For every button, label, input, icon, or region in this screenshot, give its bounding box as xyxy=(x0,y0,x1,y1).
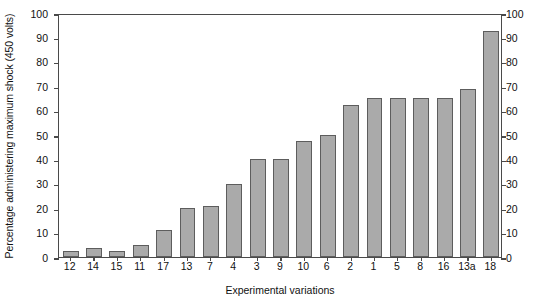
y-tick-label-right: 70 xyxy=(506,82,532,93)
x-tick-label: 16 xyxy=(432,261,455,272)
y-tick-label: 10 xyxy=(22,228,48,239)
y-tick-mark xyxy=(501,136,506,137)
y-tick-mark xyxy=(54,161,59,162)
y-tick-mark xyxy=(54,185,59,186)
y-tick-label: 40 xyxy=(22,155,48,166)
y-axis-title-text: Percentage administering maximum shock (… xyxy=(3,14,15,259)
bar xyxy=(460,89,476,257)
x-axis-title: Experimental variations xyxy=(58,284,502,296)
y-tick-label-right: 80 xyxy=(506,57,532,68)
x-tick-label: 1 xyxy=(362,261,385,272)
y-tick-mark xyxy=(501,63,506,64)
x-tick-label: 12 xyxy=(58,261,81,272)
y-tick-mark xyxy=(54,39,59,40)
y-tick-mark xyxy=(54,210,59,211)
bar xyxy=(226,184,242,257)
bar xyxy=(180,208,196,257)
x-tick-label: 13a xyxy=(455,261,478,272)
x-tick-label: 17 xyxy=(151,261,174,272)
bar xyxy=(296,141,312,257)
bar xyxy=(413,98,429,257)
bar xyxy=(156,230,172,257)
y-axis-title: Percentage administering maximum shock (… xyxy=(0,0,18,272)
x-tick-label: 13 xyxy=(175,261,198,272)
x-tick-label: 9 xyxy=(268,261,291,272)
x-tick-label: 8 xyxy=(409,261,432,272)
bar xyxy=(343,105,359,258)
y-tick-mark xyxy=(54,14,59,15)
plot-area xyxy=(58,14,502,258)
y-tick-label-right: 40 xyxy=(506,155,532,166)
y-tick-label: 70 xyxy=(22,82,48,93)
y-axis-left-ticks: 0102030405060708090100 xyxy=(22,14,48,258)
y-tick-label-right: 10 xyxy=(506,228,532,239)
y-tick-label: 100 xyxy=(22,9,48,20)
y-tick-mark xyxy=(501,14,506,15)
x-tick-label: 10 xyxy=(292,261,315,272)
bar-chart-figure: Percentage administering maximum shock (… xyxy=(0,0,543,306)
x-tick-label: 6 xyxy=(315,261,338,272)
y-tick-mark xyxy=(501,39,506,40)
y-tick-mark xyxy=(501,258,506,259)
bar xyxy=(367,98,383,257)
x-tick-label: 4 xyxy=(222,261,245,272)
y-tick-label: 80 xyxy=(22,57,48,68)
x-axis-ticks: 121415111713743910621581613a18 xyxy=(58,261,502,277)
bar xyxy=(390,98,406,257)
y-tick-mark xyxy=(501,185,506,186)
bar xyxy=(133,245,149,257)
y-tick-label: 50 xyxy=(22,131,48,142)
y-tick-label: 20 xyxy=(22,204,48,215)
y-tick-label-right: 100 xyxy=(506,9,532,20)
x-tick-label: 14 xyxy=(81,261,104,272)
x-tick-label: 2 xyxy=(338,261,361,272)
y-tick-mark xyxy=(54,88,59,89)
bar xyxy=(320,135,336,257)
x-tick-label: 5 xyxy=(385,261,408,272)
x-tick-label: 11 xyxy=(128,261,151,272)
x-tick-label: 3 xyxy=(245,261,268,272)
y-tick-label: 90 xyxy=(22,33,48,44)
y-tick-mark xyxy=(501,88,506,89)
y-axis-right-ticks: 0102030405060708090100 xyxy=(506,14,532,258)
y-tick-mark xyxy=(54,234,59,235)
bars-layer xyxy=(59,15,501,257)
y-tick-label-right: 60 xyxy=(506,106,532,117)
bar xyxy=(437,98,453,257)
y-tick-mark xyxy=(501,210,506,211)
bar xyxy=(86,248,102,257)
y-tick-mark xyxy=(54,63,59,64)
y-tick-label: 30 xyxy=(22,179,48,190)
x-tick-label: 15 xyxy=(105,261,128,272)
y-tick-label: 0 xyxy=(22,253,48,264)
y-tick-label-right: 30 xyxy=(506,179,532,190)
y-tick-mark xyxy=(54,136,59,137)
bar xyxy=(273,159,289,257)
x-tick-label: 18 xyxy=(479,261,502,272)
y-tick-mark xyxy=(501,234,506,235)
y-tick-mark xyxy=(54,258,59,259)
y-tick-label: 60 xyxy=(22,106,48,117)
y-tick-mark xyxy=(501,161,506,162)
y-tick-label-right: 20 xyxy=(506,204,532,215)
bar xyxy=(483,31,499,257)
y-tick-label-right: 90 xyxy=(506,33,532,44)
x-tick-label: 7 xyxy=(198,261,221,272)
y-tick-mark xyxy=(501,112,506,113)
y-tick-label-right: 0 xyxy=(506,253,532,264)
bar xyxy=(250,159,266,257)
y-tick-mark xyxy=(54,112,59,113)
bar xyxy=(203,206,219,257)
y-tick-label-right: 50 xyxy=(506,131,532,142)
